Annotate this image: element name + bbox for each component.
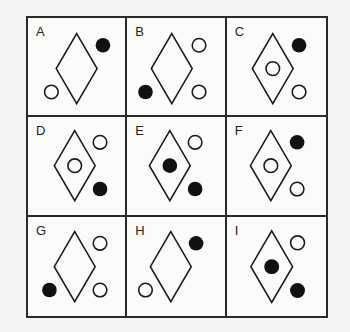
diamond-figure [127,217,224,316]
puzzle-grid: A B C D E [26,16,328,318]
empty-circle-icon [290,236,304,250]
cell-a[interactable]: A [28,18,127,117]
empty-circle-icon [193,38,207,52]
empty-circle-icon [45,85,59,99]
diamond-figure [28,117,125,214]
diamond-figure [28,18,125,115]
diamond-icon [56,34,97,104]
diamond-icon [151,231,192,301]
diamond-figure [227,18,326,115]
cell-e[interactable]: E [127,117,226,216]
diamond-icon [54,131,95,201]
cell-h[interactable]: H [127,217,226,316]
diamond-figure [227,217,326,316]
diamond-icon [152,34,193,104]
empty-circle-icon [68,159,82,173]
empty-circle-icon [292,85,306,99]
cell-b[interactable]: B [127,18,226,117]
cell-c[interactable]: C [227,18,326,117]
empty-circle-icon [139,283,153,297]
filled-circle-icon [291,38,306,53]
empty-circle-icon [290,183,304,197]
filled-circle-icon [96,38,111,53]
diamond-figure [28,217,125,316]
empty-circle-icon [193,85,207,99]
cell-g[interactable]: G [28,217,127,316]
empty-circle-icon [189,136,203,150]
cell-i[interactable]: I [227,217,326,316]
filled-circle-icon [42,282,57,297]
filled-circle-icon [189,236,204,251]
filled-circle-icon [188,182,203,197]
diamond-figure [127,117,224,214]
empty-circle-icon [93,283,107,297]
filled-circle-icon [289,135,304,150]
filled-circle-icon [290,283,305,298]
filled-circle-icon [93,182,108,197]
diamond-icon [252,34,293,104]
diamond-icon [250,131,291,201]
empty-circle-icon [266,62,280,76]
diamond-icon [54,231,95,301]
diamond-figure [227,117,326,214]
filled-circle-icon [163,159,178,174]
diamond-figure [127,18,224,115]
filled-circle-icon [139,85,154,100]
empty-circle-icon [264,159,278,173]
filled-circle-icon [264,259,279,274]
cell-f[interactable]: F [227,117,326,216]
empty-circle-icon [93,236,107,250]
empty-circle-icon [93,136,107,150]
cell-d[interactable]: D [28,117,127,216]
